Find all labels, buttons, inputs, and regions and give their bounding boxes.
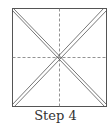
fold-diagram — [0, 0, 111, 108]
step-caption: Step 4 — [0, 107, 111, 125]
